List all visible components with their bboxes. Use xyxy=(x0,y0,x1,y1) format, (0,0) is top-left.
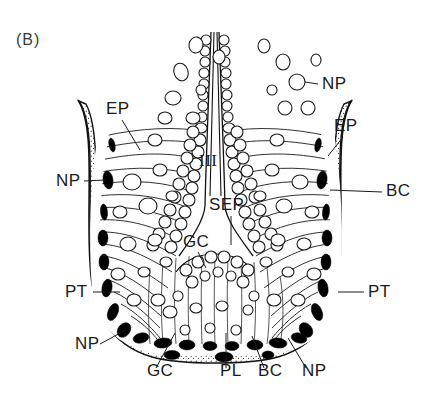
label-pl-bottom: PL xyxy=(220,361,242,380)
leader-np-upper-right xyxy=(305,82,318,84)
label-pt-left: PT xyxy=(65,282,88,301)
label-ep-right: EP xyxy=(334,116,357,135)
label-iii-center: III xyxy=(199,151,217,170)
label-bc-right: BC xyxy=(386,181,410,200)
anatomy-diagram-svg: (B) xyxy=(0,0,429,410)
label-gc-bottom: GC xyxy=(147,361,173,380)
label-bc-bottom: BC xyxy=(258,361,282,380)
label-pt-right: PT xyxy=(368,282,391,301)
label-np-bottom: NP xyxy=(302,361,326,380)
panel-label: (B) xyxy=(16,31,40,48)
label-np-lower-left: NP xyxy=(75,334,99,353)
label-np-upper-right: NP xyxy=(322,74,346,93)
label-sep-center: SEP xyxy=(209,195,244,214)
figure-panel-b: (B) xyxy=(0,0,429,410)
label-gc-inner: GC xyxy=(183,232,209,251)
free-cells-group xyxy=(158,36,321,124)
label-np-left: NP xyxy=(56,171,80,190)
label-ep-left: EP xyxy=(106,99,129,118)
